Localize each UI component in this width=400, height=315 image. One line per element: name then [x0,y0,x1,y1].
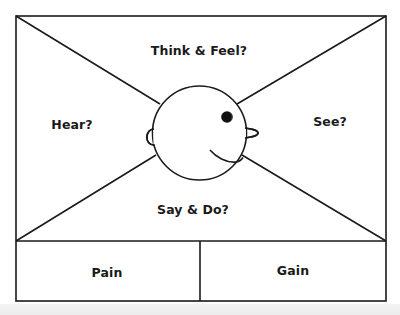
quadrant-label-hear: Hear? [51,119,92,132]
head-circle [153,86,247,180]
eye-icon [221,111,233,123]
quadrant-label-say-do: Say & Do? [157,204,229,217]
quadrant-label-see: See? [313,116,347,129]
footer-label-pain: Pain [92,267,123,280]
quadrant-label-think-feel: Think & Feel? [151,45,247,58]
footer-label-gain: Gain [277,265,309,278]
bottom-shadow-band [0,304,400,315]
empathy-map: Think & Feel? Hear? See? Say & Do? Pain … [0,0,400,315]
